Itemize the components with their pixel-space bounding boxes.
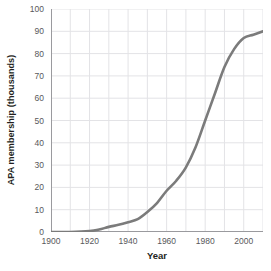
y-axis-tick-label: 100: [18, 4, 48, 14]
y-axis-tick-label: 50: [18, 116, 48, 126]
y-axis-tick-label: 80: [18, 49, 48, 59]
y-axis-tick-labels: 0102030405060708090100: [18, 0, 48, 271]
x-axis-tick-labels: 190019201940196019802000: [0, 236, 271, 250]
x-axis-tick-label: 1900: [42, 236, 61, 246]
x-axis-tick-label: 1920: [80, 236, 99, 246]
plot-area: [51, 9, 263, 232]
y-axis-title-text: APA membership (thousands): [6, 55, 16, 186]
y-axis-tick-label: 60: [18, 93, 48, 103]
x-axis-tick-label: 1980: [196, 236, 215, 246]
y-axis-tick-label: 10: [18, 205, 48, 215]
data-series-line: [51, 31, 263, 232]
y-axis-tick-label: 30: [18, 160, 48, 170]
chart-canvas: [51, 9, 263, 232]
y-axis-tick-label: 70: [18, 71, 48, 81]
chart-figure: APA membership (thousands) 0102030405060…: [0, 0, 271, 271]
x-axis-tick-label: 1940: [119, 236, 138, 246]
x-axis-tick-label: 2000: [234, 236, 253, 246]
x-axis-tick-label: 1960: [157, 236, 176, 246]
y-axis-tick-label: 40: [18, 138, 48, 148]
y-axis-tick-label: 90: [18, 26, 48, 36]
x-axis-title: Year: [51, 250, 263, 261]
y-axis-tick-label: 20: [18, 182, 48, 192]
